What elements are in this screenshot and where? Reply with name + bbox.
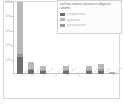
legend-entries: not galvanisedgalvanisedpart galvanised [60,12,119,28]
bar-segment [17,2,23,54]
legend-title: roof has serious intrusion in alligators… [60,2,119,10]
legend-label: part galvanised [67,23,86,27]
y-axis-tick-mark [11,60,13,61]
legend-swatch [60,24,65,27]
legend-swatch [60,13,65,16]
y-axis-tick-label: 40% [0,14,11,18]
bar-group [28,2,34,74]
y-axis-tick-label: 10% [0,58,11,62]
legend: roof has serious intrusion in alligators… [57,0,122,34]
legend-entry: not galvanised [60,12,119,17]
legend-swatch [60,18,65,21]
legend-entry: part galvanised [60,23,119,28]
y-axis-tick-label: 20% [0,43,11,47]
bar-segment [17,57,23,74]
bar-chart: 50%40%30%20%10% heat paletteswind surfac… [0,0,123,104]
y-axis-tick-mark [11,16,13,17]
bar-group [17,2,23,74]
legend-label: not galvanised [67,12,85,16]
y-axis-tick-mark [11,31,13,32]
y-axis-tick-mark [11,45,13,46]
bar-segment [17,54,23,58]
bar-group [40,2,46,74]
y-axis-tick-mark [11,2,13,3]
legend-label: galvanised [67,18,80,22]
y-axis-tick-label: 30% [0,29,11,33]
legend-entry: galvanised [60,17,119,22]
y-axis-tick-label: 50% [0,0,11,4]
